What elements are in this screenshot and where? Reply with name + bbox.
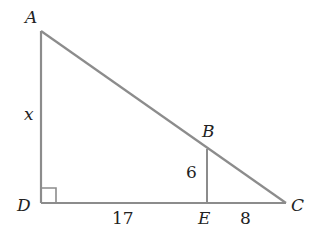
segment-ac: [41, 31, 286, 203]
label-x: x: [24, 106, 34, 123]
label-ec-length: 8: [240, 210, 251, 227]
label-a: A: [25, 9, 37, 26]
triangle-diagram: [0, 0, 315, 238]
label-c: C: [291, 197, 304, 214]
label-b: B: [202, 123, 215, 140]
label-be-length: 6: [186, 164, 197, 181]
label-de-length: 17: [112, 210, 134, 227]
label-d: D: [17, 197, 31, 214]
label-e: E: [198, 210, 210, 227]
right-angle-marker: [41, 188, 56, 203]
